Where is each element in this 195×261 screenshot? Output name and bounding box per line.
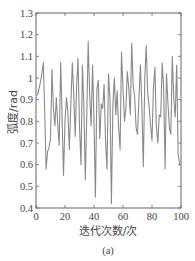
x-tick-label: 0 [33,211,38,222]
line-chart: 0.40.50.60.70.80.911.11.21.3 02040608010… [0,0,195,261]
x-tick-label: 20 [60,211,71,222]
x-tick-label: 60 [118,211,129,222]
x-axis-label: 迭代次数/次 [79,224,138,238]
x-tick-label: 40 [89,211,100,222]
y-tick-label: 0.7 [20,138,33,149]
y-tick-label: 1.1 [20,51,33,62]
data-series-line [38,41,182,204]
plot-frame [36,13,181,208]
y-tick-label: 1.3 [20,8,33,19]
x-tick-label: 100 [173,211,189,222]
y-tick-labels: 0.40.50.60.70.80.911.11.21.3 [20,8,34,214]
y-tick-label: 0.5 [20,181,33,192]
y-tick-label: 0.8 [20,116,33,127]
y-tick-label: 0.4 [20,203,34,214]
figure-caption: (a) [102,245,114,257]
y-tick-label: 1 [28,73,33,84]
y-tick-label: 0.9 [20,94,33,105]
axis-ticks [36,13,181,208]
x-tick-labels: 020406080100 [33,211,189,222]
y-tick-label: 1.2 [20,29,33,40]
y-tick-label: 0.6 [20,159,33,170]
plot-border [36,13,181,208]
x-tick-label: 80 [147,211,158,222]
y-axis-label: 弧度/rad [6,90,20,134]
